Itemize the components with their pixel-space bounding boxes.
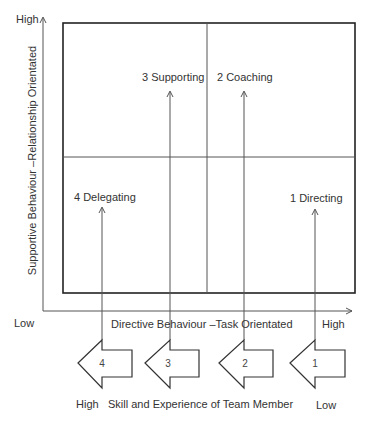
quadrant-label-supporting: 3 Supporting: [142, 72, 204, 83]
connector-1-directing: [312, 209, 318, 340]
y-axis-title: Supportive Behaviour –Relationship Orien…: [27, 41, 38, 281]
skill-low-label: Low: [316, 400, 336, 411]
x-axis-high-label: High: [322, 319, 345, 330]
y-axis: [40, 17, 46, 311]
quadrant-label-directing: 1 Directing: [290, 193, 343, 204]
connector-4-delegating: [99, 207, 105, 340]
block-arrow-4-number: 4: [99, 359, 105, 369]
quadrant-label-delegating: 4 Delegating: [74, 192, 136, 203]
skill-scale-title: Skill and Experience of Team Member: [108, 399, 293, 410]
block-arrow-3-number: 3: [165, 359, 171, 369]
block-arrow-1-number: 1: [312, 359, 318, 369]
x-axis: [43, 308, 352, 314]
block-arrow-2-number: 2: [242, 359, 248, 369]
quadrant-box: [63, 23, 355, 293]
x-axis-title: Directive Behaviour –Task Orientated: [111, 319, 293, 330]
skill-high-label: High: [76, 399, 99, 410]
y-axis-high-label: High: [16, 14, 39, 25]
x-axis-low-label: Low: [14, 318, 34, 329]
connector-3-supporting: [167, 91, 173, 340]
block-arrow-3-icon: [145, 340, 199, 388]
connector-2-coaching: [241, 91, 247, 340]
quadrant-label-coaching: 2 Coaching: [217, 72, 273, 83]
